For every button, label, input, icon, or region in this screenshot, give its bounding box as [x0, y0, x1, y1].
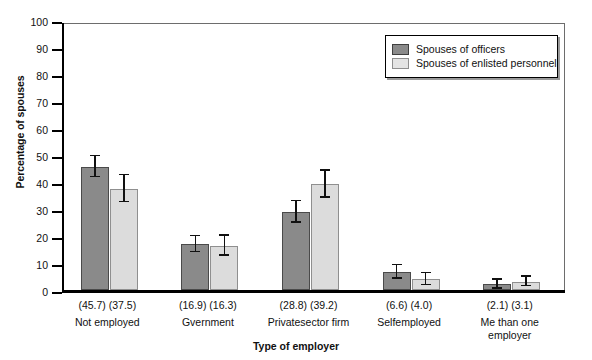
y-axis-tick-label: 40 [0, 179, 48, 189]
error-bar-line [123, 175, 125, 202]
legend-swatch-icon-officers [392, 44, 409, 55]
x-axis-category-label: Me than oneemployer [440, 316, 580, 341]
error-bar-cap-top [492, 278, 502, 280]
legend-label-enlisted: Spouses of enlisted personnel [416, 57, 557, 69]
y-axis-tick-label: 90 [0, 44, 48, 54]
error-bar-cap-top [90, 155, 100, 157]
error-bar-cap-top [421, 272, 431, 274]
y-axis-tick-label: 80 [0, 71, 48, 81]
x-axis-value-label: (2.1) (3.1) [440, 299, 580, 311]
error-bar-cap-top [320, 169, 330, 171]
error-bar-cap-top [119, 174, 129, 176]
legend-item-enlisted: Spouses of enlisted personnel [392, 57, 551, 69]
error-bar-cap-top [291, 200, 301, 202]
error-bar-cap-bottom [421, 284, 431, 286]
bar [81, 167, 109, 290]
y-axis-tick [52, 130, 62, 132]
y-axis-tick [52, 49, 62, 51]
y-axis-tick [52, 103, 62, 105]
error-bar-cap-bottom [219, 254, 229, 256]
legend-swatch-icon-enlisted [392, 58, 409, 69]
legend: Spouses of officers Spouses of enlisted … [385, 35, 558, 78]
legend-label-officers: Spouses of officers [416, 43, 505, 55]
y-axis-tick-label: 70 [0, 98, 48, 108]
error-bar-cap-bottom [119, 201, 129, 203]
bar-chart: Percentage of spouses 100908070605040302… [0, 0, 592, 360]
error-bar-cap-bottom [291, 221, 301, 223]
y-axis-tick-label: 30 [0, 206, 48, 216]
error-bar-cap-bottom [492, 287, 502, 289]
error-bar-cap-bottom [90, 176, 100, 178]
y-axis-tick [52, 265, 62, 267]
y-axis-tick [52, 22, 62, 24]
legend-item-officers: Spouses of officers [392, 43, 551, 55]
error-bar-cap-top [521, 275, 531, 277]
y-axis-tick [52, 184, 62, 186]
y-axis-tick [52, 211, 62, 213]
y-axis-tick-label: 60 [0, 125, 48, 135]
error-bar-cap-bottom [190, 251, 200, 253]
x-axis-title: Type of employer [0, 340, 592, 352]
error-bar-line [324, 171, 326, 198]
y-axis-tick [52, 238, 62, 240]
error-bar-cap-top [219, 234, 229, 236]
bar [282, 212, 310, 290]
y-axis-tick [52, 157, 62, 159]
y-axis-tick-label: 100 [0, 17, 48, 27]
error-bar-cap-top [392, 264, 402, 266]
bar [311, 184, 339, 290]
error-bar-cap-bottom [320, 196, 330, 198]
y-axis-tick [52, 76, 62, 78]
y-axis-tick-label: 20 [0, 233, 48, 243]
error-bar-line [295, 201, 297, 223]
y-axis-tick-label: 50 [0, 152, 48, 162]
bar [110, 189, 138, 290]
error-bar-cap-bottom [392, 277, 402, 279]
y-axis-tick-label: 10 [0, 260, 48, 270]
y-axis-tick [52, 292, 62, 294]
error-bar-line [94, 156, 96, 177]
y-axis-tick-label: 0 [0, 287, 48, 297]
error-bar-cap-bottom [521, 285, 531, 287]
error-bar-cap-top [190, 235, 200, 237]
error-bar-line [224, 236, 226, 256]
